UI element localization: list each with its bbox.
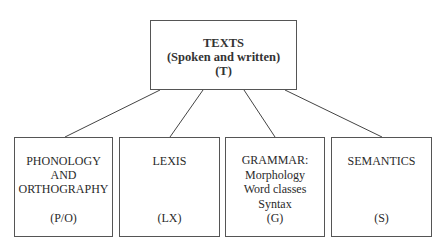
node-label-line: LEXIS xyxy=(120,154,219,168)
root-title: TEXTS xyxy=(151,36,296,50)
node-grammar: GRAMMAR: Morphology Word classes Syntax … xyxy=(225,137,325,237)
root-abbr: (T) xyxy=(151,64,296,78)
node-label-line: Morphology xyxy=(226,168,324,183)
node-label-line: GRAMMAR: xyxy=(226,153,324,168)
node-semantics: SEMANTICS (S) xyxy=(331,137,432,237)
node-label-line: AND xyxy=(15,168,112,182)
node-abbr: (P/O) xyxy=(15,211,112,225)
connector-to-phonology xyxy=(65,90,160,137)
node-label-line: ORTHOGRAPHY xyxy=(15,182,112,196)
root-node-texts: TEXTS (Spoken and written) (T) xyxy=(150,20,297,90)
connector-to-lexis xyxy=(170,90,203,137)
node-label-line: SEMANTICS xyxy=(332,154,431,168)
node-abbr: (S) xyxy=(332,211,431,225)
root-subtitle: (Spoken and written) xyxy=(151,50,296,64)
node-phonology-orthography: PHONOLOGY AND ORTHOGRAPHY (P/O) xyxy=(14,137,113,237)
node-abbr: (LX) xyxy=(120,211,219,225)
connector-to-grammar xyxy=(244,90,275,137)
node-label-line: PHONOLOGY xyxy=(15,154,112,168)
node-label-line: Syntax xyxy=(226,197,324,212)
connector-to-semantics xyxy=(285,90,382,137)
node-label-line: Word classes xyxy=(226,182,324,197)
node-lexis: LEXIS (LX) xyxy=(119,137,220,237)
node-abbr: (G) xyxy=(226,211,324,225)
